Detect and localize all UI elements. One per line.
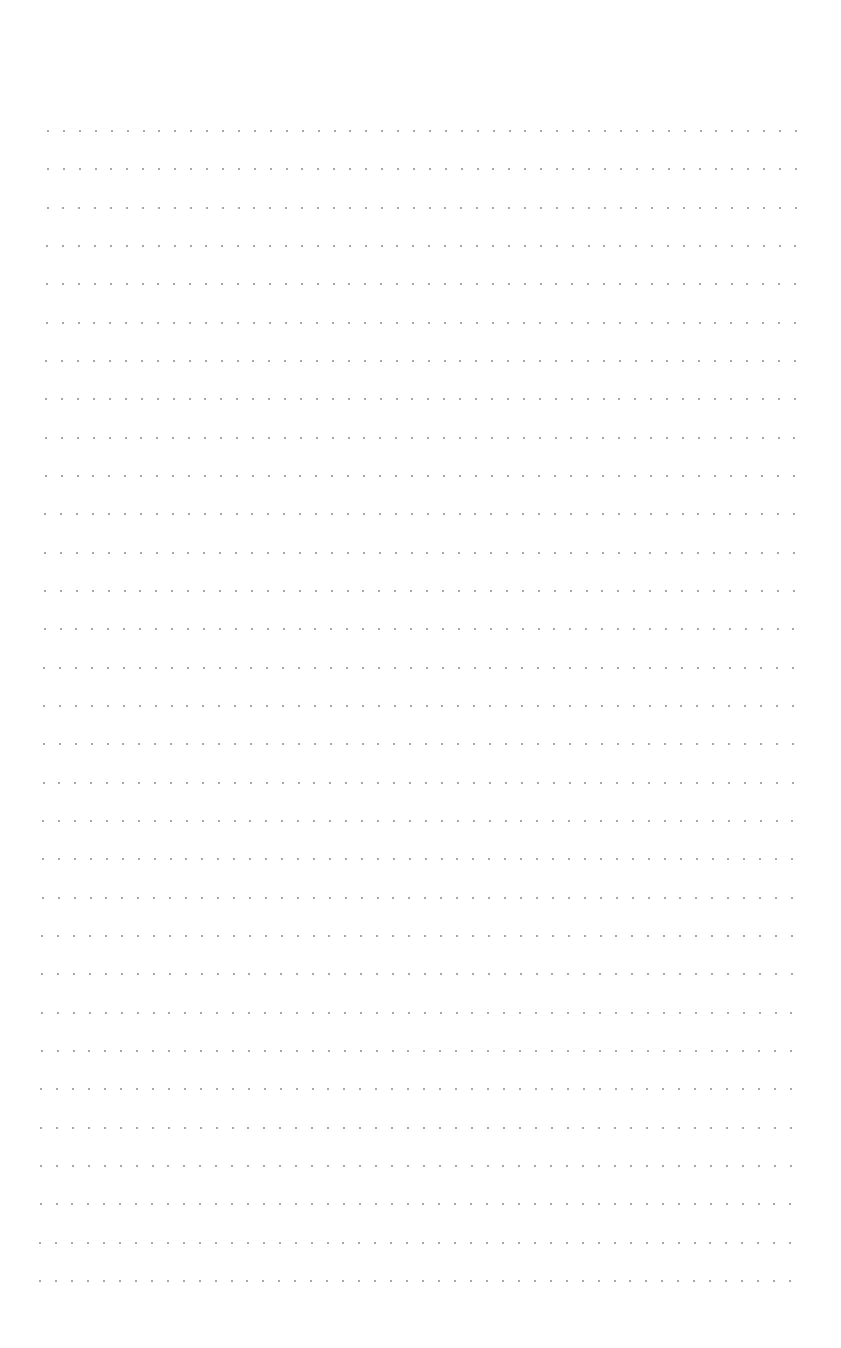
grid-dot bbox=[492, 283, 494, 285]
grid-dot bbox=[217, 935, 219, 937]
grid-dot bbox=[489, 743, 491, 745]
grid-dot bbox=[283, 628, 285, 630]
grid-dot bbox=[665, 667, 667, 669]
grid-dot bbox=[333, 168, 335, 170]
grid-dot bbox=[662, 1127, 664, 1129]
grid-dot bbox=[441, 858, 443, 860]
grid-dot bbox=[252, 360, 254, 362]
grid-dot bbox=[347, 475, 349, 477]
grid-dot bbox=[234, 743, 236, 745]
grid-dot bbox=[232, 1088, 234, 1090]
grid-dot bbox=[584, 820, 586, 822]
grid-dot bbox=[586, 552, 588, 554]
grid-dot bbox=[582, 1127, 584, 1129]
grid-dot bbox=[282, 667, 284, 669]
grid-dot bbox=[632, 897, 634, 899]
grid-dot bbox=[488, 858, 490, 860]
grid-dot bbox=[570, 552, 572, 554]
grid-dot bbox=[231, 1242, 233, 1244]
grid-dot bbox=[390, 1242, 392, 1244]
grid-dot bbox=[649, 705, 651, 707]
grid-dot bbox=[379, 552, 381, 554]
grid-dot bbox=[711, 1012, 713, 1014]
grid-dot bbox=[474, 590, 476, 592]
grid-dot bbox=[59, 743, 61, 745]
grid-dot bbox=[682, 360, 684, 362]
grid-dot bbox=[396, 360, 398, 362]
grid-dot bbox=[457, 782, 459, 784]
grid-dot bbox=[204, 475, 206, 477]
grid-dot bbox=[486, 1203, 488, 1205]
grid-dot bbox=[58, 820, 60, 822]
grid-dot bbox=[696, 705, 698, 707]
grid-dot bbox=[313, 858, 315, 860]
grid-dot bbox=[616, 858, 618, 860]
grid-dot bbox=[522, 590, 524, 592]
grid-dot bbox=[74, 858, 76, 860]
grid-dot bbox=[646, 1088, 648, 1090]
grid-dot bbox=[791, 897, 793, 899]
grid-dot bbox=[140, 437, 142, 439]
grid-dot bbox=[311, 1127, 313, 1129]
grid-dot bbox=[121, 897, 123, 899]
grid-dot bbox=[534, 1203, 536, 1205]
grid-dot bbox=[747, 168, 749, 170]
grid-dot bbox=[326, 1280, 328, 1282]
grid-dot bbox=[170, 858, 172, 860]
grid-dot bbox=[59, 667, 61, 669]
grid-dot bbox=[618, 552, 620, 554]
grid-dot bbox=[601, 667, 603, 669]
grid-dot bbox=[90, 820, 92, 822]
grid-dot bbox=[486, 1280, 488, 1282]
grid-dot bbox=[137, 935, 139, 937]
grid-dot bbox=[394, 590, 396, 592]
grid-dot bbox=[413, 168, 415, 170]
grid-dot bbox=[518, 1203, 520, 1205]
grid-dot bbox=[215, 1165, 217, 1167]
grid-dot bbox=[698, 437, 700, 439]
grid-dot bbox=[598, 1280, 600, 1282]
grid-dot bbox=[219, 552, 221, 554]
grid-dot bbox=[568, 820, 570, 822]
grid-dot bbox=[524, 245, 526, 247]
grid-dot bbox=[334, 130, 336, 132]
grid-dot bbox=[747, 207, 749, 209]
grid-dot bbox=[172, 513, 174, 515]
grid-dot bbox=[693, 1280, 695, 1282]
grid-dot bbox=[663, 1050, 665, 1052]
grid-dot bbox=[775, 973, 777, 975]
grid-dot bbox=[519, 1088, 521, 1090]
grid-dot bbox=[189, 398, 191, 400]
grid-dot bbox=[43, 667, 45, 669]
grid-dot bbox=[566, 1280, 568, 1282]
grid-dot bbox=[200, 1050, 202, 1052]
grid-dot bbox=[569, 705, 571, 707]
grid-dot bbox=[327, 1242, 329, 1244]
grid-dot bbox=[236, 513, 238, 515]
grid-dot bbox=[508, 207, 510, 209]
grid-dot bbox=[714, 322, 716, 324]
grid-dot bbox=[45, 360, 47, 362]
grid-dot bbox=[791, 935, 793, 937]
grid-dot bbox=[298, 667, 300, 669]
grid-dot bbox=[333, 207, 335, 209]
grid-dot bbox=[172, 552, 174, 554]
grid-dot bbox=[522, 552, 524, 554]
grid-dot bbox=[776, 820, 778, 822]
grid-dot bbox=[77, 398, 79, 400]
grid-dot bbox=[110, 168, 112, 170]
grid-dot bbox=[59, 705, 61, 707]
grid-dot bbox=[662, 1203, 664, 1205]
grid-dot bbox=[776, 743, 778, 745]
grid-dot bbox=[775, 1012, 777, 1014]
grid-dot bbox=[536, 935, 538, 937]
grid-dot bbox=[266, 667, 268, 669]
grid-dot bbox=[587, 398, 589, 400]
grid-dot bbox=[174, 130, 176, 132]
grid-dot bbox=[503, 1088, 505, 1090]
grid-dot bbox=[359, 1127, 361, 1129]
grid-dot bbox=[93, 437, 95, 439]
grid-dot bbox=[77, 475, 79, 477]
grid-dot bbox=[396, 245, 398, 247]
grid-dot bbox=[93, 398, 95, 400]
